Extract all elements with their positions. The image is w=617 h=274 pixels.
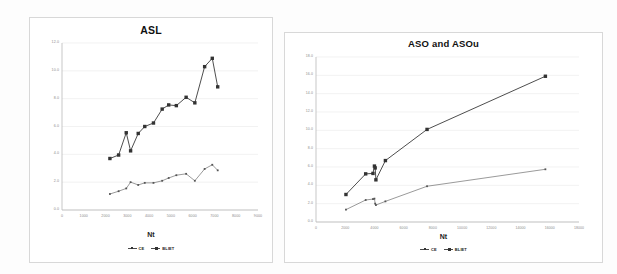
data-point-marker	[344, 193, 347, 196]
y-tick-label: 12.0	[292, 110, 313, 114]
legend-label-ce: CE	[431, 247, 437, 252]
data-point-marker	[184, 96, 187, 99]
x-tick-label: 0	[315, 227, 317, 231]
data-point-marker	[217, 169, 219, 171]
y-tick-label: 2.0	[38, 180, 59, 184]
data-point-marker	[168, 177, 170, 179]
plot-area-asl	[62, 43, 258, 210]
legend-entry-ce-asl: CE	[128, 246, 145, 251]
y-tick-label: 10.0	[292, 129, 313, 133]
data-point-marker	[167, 103, 170, 106]
x-tick-label: 2000	[341, 227, 349, 231]
legend-entry-bliet-asl: BLIET	[151, 246, 174, 251]
data-point-marker	[193, 101, 196, 104]
y-tick-label: 10.0	[38, 69, 59, 73]
data-point-marker	[125, 131, 128, 134]
figure-page: ASL 0.02.04.06.08.010.012.0 010002000300…	[0, 0, 617, 274]
x-tick-label: 8000	[232, 215, 240, 219]
legend-label-bliet: BLIET	[455, 247, 467, 252]
data-point-marker	[425, 128, 428, 131]
data-point-marker	[130, 181, 132, 183]
data-point-marker	[175, 174, 177, 176]
chart-panel-asl: ASL 0.02.04.06.08.010.012.0 010002000300…	[29, 17, 273, 263]
x-tick-label: 4000	[370, 227, 378, 231]
x-tick-label: 9000	[254, 215, 262, 219]
x-tick-label: 8000	[429, 227, 437, 231]
data-point-marker	[385, 200, 387, 202]
data-point-marker	[365, 199, 367, 201]
data-point-marker	[371, 172, 374, 175]
data-point-marker	[373, 166, 376, 169]
data-point-marker	[118, 190, 120, 192]
data-point-marker	[125, 188, 127, 190]
y-tick-label: 4.0	[292, 184, 313, 188]
data-point-marker	[129, 149, 132, 152]
data-point-marker	[204, 168, 206, 170]
x-tick-label: 7000	[210, 215, 218, 219]
legend-marker-diamond-icon	[128, 248, 137, 249]
data-point-marker	[161, 180, 163, 182]
x-tick-label: 5000	[167, 215, 175, 219]
x-tick-label: 12000	[486, 227, 496, 231]
data-point-marker	[544, 75, 547, 78]
chart-title-aso: ASO and ASOu	[285, 38, 602, 49]
data-point-marker	[137, 132, 140, 135]
chart-panel-aso: ASO and ASOu 0.02.04.06.08.010.012.014.0…	[284, 32, 603, 263]
data-point-marker	[375, 204, 377, 206]
data-point-marker	[152, 121, 155, 124]
y-tick-label: 2.0	[292, 202, 313, 206]
data-point-marker	[216, 85, 219, 88]
legend-marker-diamond-icon	[420, 249, 429, 250]
legend-entry-ce-aso: CE	[420, 247, 437, 252]
data-point-marker	[144, 182, 146, 184]
x-tick-label: 4000	[145, 215, 153, 219]
data-point-marker	[175, 104, 178, 107]
y-tick-label: 0.0	[38, 208, 59, 212]
data-point-marker	[109, 193, 111, 195]
data-point-marker	[153, 182, 155, 184]
data-point-marker	[426, 185, 428, 187]
y-tick-label: 8.0	[292, 147, 313, 151]
y-tick-label: 6.0	[38, 125, 59, 129]
data-point-marker	[108, 157, 111, 160]
data-point-marker	[384, 159, 387, 162]
x-tick-label: 10000	[457, 227, 467, 231]
data-point-marker	[211, 57, 214, 60]
plot-area-aso	[316, 57, 579, 222]
x-tick-label: 0	[61, 215, 63, 219]
x-tick-label: 6000	[188, 215, 196, 219]
legend-asl: CE BLIET	[30, 246, 272, 251]
data-point-marker	[203, 65, 206, 68]
legend-label-bliet: BLIET	[162, 246, 174, 251]
legend-marker-square-icon	[444, 249, 453, 250]
legend-marker-square-icon	[151, 248, 160, 249]
x-tick-label: 6000	[400, 227, 408, 231]
data-point-marker	[117, 153, 120, 156]
series-line-ce	[110, 165, 218, 194]
data-point-marker	[364, 172, 367, 175]
legend-aso: CE BLIET	[285, 247, 602, 252]
x-tick-label: 14000	[515, 227, 525, 231]
chart-title-asl: ASL	[30, 24, 272, 36]
y-tick-label: 12.0	[38, 41, 59, 45]
legend-entry-bliet-aso: BLIET	[444, 247, 467, 252]
plot-svg-aso	[316, 57, 579, 222]
x-axis-label-asl: Nt	[30, 231, 272, 238]
data-point-marker	[143, 125, 146, 128]
data-point-marker	[211, 164, 213, 166]
x-tick-label: 16000	[545, 227, 555, 231]
x-tick-label: 18000	[574, 227, 584, 231]
y-tick-label: 16.0	[292, 74, 313, 78]
data-point-marker	[160, 107, 163, 110]
data-point-marker	[544, 168, 546, 170]
plot-svg-asl	[62, 43, 258, 210]
y-tick-label: 14.0	[292, 92, 313, 96]
x-tick-label: 2000	[101, 215, 109, 219]
y-tick-label: 4.0	[38, 153, 59, 157]
y-tick-label: 6.0	[292, 165, 313, 169]
x-axis-label-aso: Nt	[285, 233, 602, 240]
data-point-marker	[345, 209, 347, 211]
y-tick-label: 8.0	[38, 97, 59, 101]
data-point-marker	[137, 184, 139, 186]
legend-label-ce: CE	[139, 246, 145, 251]
